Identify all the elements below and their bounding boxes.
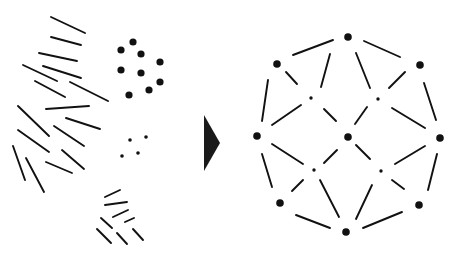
line-segment	[62, 150, 84, 169]
small-dot	[136, 151, 140, 155]
line-segment	[70, 82, 108, 101]
network-junction	[376, 97, 379, 100]
small-dot	[128, 138, 132, 142]
line-segment	[18, 130, 49, 152]
network-junction	[379, 169, 382, 172]
network-edge	[428, 154, 437, 190]
line-segment	[66, 118, 100, 129]
large-dot	[117, 66, 124, 73]
network-node	[276, 199, 284, 207]
network-junction	[312, 168, 315, 171]
network-edge	[392, 180, 404, 189]
line-segment	[23, 65, 57, 81]
line-segment	[117, 233, 127, 244]
line-segment	[54, 126, 84, 146]
line-segment	[133, 229, 143, 240]
network-node	[415, 201, 423, 209]
network-edge	[272, 144, 303, 164]
line-segment	[125, 218, 134, 222]
large-dot	[117, 46, 124, 53]
network-node	[273, 60, 281, 68]
network-edge	[363, 212, 402, 228]
network-edge	[364, 41, 400, 57]
large-dot	[156, 78, 163, 85]
small-dot	[144, 135, 148, 139]
network-edge	[424, 83, 436, 120]
network-node	[344, 133, 352, 141]
network-junction	[309, 96, 312, 99]
network-edge	[389, 72, 405, 88]
scattered-small-dots	[120, 135, 148, 158]
line-segment	[101, 218, 112, 228]
network-edge	[355, 107, 367, 124]
network-edge	[324, 109, 336, 121]
line-segment	[113, 210, 128, 217]
network-node	[342, 228, 350, 236]
network-edge	[286, 72, 297, 84]
network-edge	[320, 180, 339, 217]
network-edge	[296, 215, 330, 228]
line-segment	[46, 106, 89, 109]
network-edge	[356, 185, 372, 219]
network-node	[436, 134, 444, 142]
line-segment	[105, 202, 127, 205]
line-segment	[26, 158, 44, 192]
transform-arrow-icon	[204, 115, 220, 171]
line-segment	[18, 106, 49, 136]
network-edge	[262, 80, 268, 121]
network-edge	[395, 146, 425, 164]
large-dot	[156, 58, 163, 65]
network-edge	[356, 145, 370, 159]
network-formation-diagram	[0, 0, 458, 253]
network-edge	[324, 150, 337, 163]
scattered-large-dots	[117, 38, 163, 98]
figure-caption	[4, 244, 264, 253]
large-dot	[125, 91, 132, 98]
line-segment	[39, 53, 77, 61]
network-large-nodes	[253, 33, 444, 236]
line-segment	[46, 162, 72, 173]
network-edge	[293, 40, 333, 55]
network-edge	[272, 105, 301, 125]
line-segment	[105, 190, 120, 197]
line-segment	[35, 81, 65, 97]
network-edge	[356, 53, 370, 88]
network-edge	[392, 108, 425, 128]
line-segment	[51, 37, 81, 45]
small-dot	[120, 154, 124, 158]
line-segment	[13, 146, 25, 180]
large-dot	[145, 86, 152, 93]
large-dot	[129, 38, 136, 45]
large-dot	[137, 50, 144, 57]
line-segment	[97, 229, 111, 243]
network-edge	[292, 180, 303, 191]
large-dot	[137, 69, 144, 76]
line-segment	[51, 17, 85, 33]
network-node	[344, 33, 352, 41]
network-node	[253, 132, 261, 140]
network-edge	[321, 54, 330, 87]
network-edge	[262, 154, 272, 187]
network-node	[416, 61, 424, 69]
